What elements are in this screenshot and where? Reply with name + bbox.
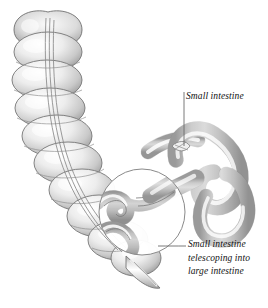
label-telescoping-line2: telescoping into xyxy=(188,252,250,266)
label-telescoping-line1: Small intestine xyxy=(188,238,250,252)
label-telescoping: Small intestine telescoping into large i… xyxy=(188,238,250,279)
label-telescoping-line3: large intestine xyxy=(188,265,250,279)
label-small-intestine-text: Small intestine xyxy=(186,90,244,104)
illustration-figure: Small intestine Small intestine telescop… xyxy=(0,0,268,308)
label-small-intestine: Small intestine xyxy=(186,90,244,104)
